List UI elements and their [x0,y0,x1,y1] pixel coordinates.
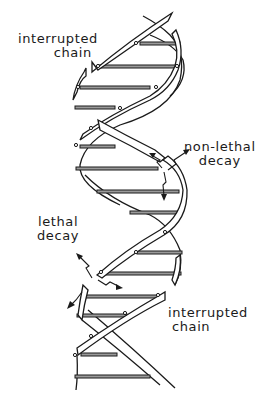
label-line-1: interrupted [18,32,98,46]
label-line-2: chain [18,46,98,60]
lethal-decay-label: lethal decay [37,215,79,243]
label-line-2: decay [37,229,79,243]
label-line-2: chain [168,320,248,334]
non-lethal-decay-label: non-lethal decay [184,140,256,168]
top-interrupted-chain-label: interrupted chain [18,32,98,60]
bottom-interrupted-chain-label: interrupted chain [168,306,248,334]
front-strand [73,13,187,355]
label-line-2: decay [184,154,256,168]
label-line-1: interrupted [168,306,248,320]
label-line-1: non-lethal [184,140,256,154]
label-line-1: lethal [37,215,79,229]
